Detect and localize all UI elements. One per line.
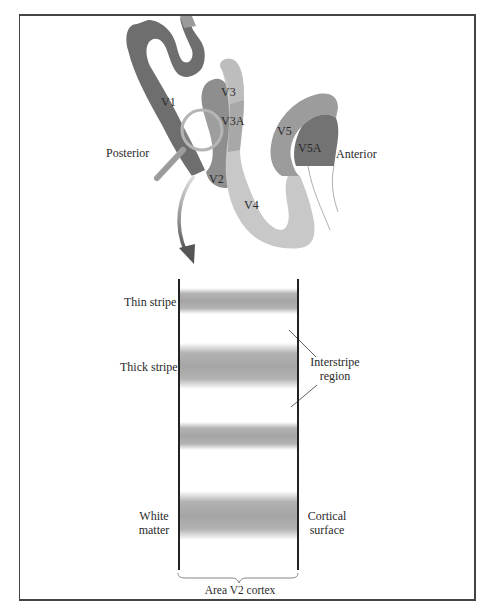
label-v1: V1 [161, 95, 176, 109]
thick-stripe-1 [180, 343, 297, 389]
cortical-surface-boundary-line [297, 279, 299, 570]
label-v5: V5 [277, 124, 292, 138]
label-cortical-surface: Cortical surface [302, 509, 352, 537]
label-v2: V2 [209, 172, 224, 186]
label-v3a: V3A [221, 114, 244, 128]
label-anterior: Anterior [336, 147, 377, 161]
label-interstripe-region: Interstripe region [303, 355, 367, 383]
label-v4: V4 [244, 198, 259, 212]
label-posterior: Posterior [106, 146, 149, 160]
label-white-matter: White matter [132, 509, 176, 537]
zoom-arrow-icon [179, 176, 195, 264]
label-thin-stripe: Thin stripe [124, 295, 176, 309]
thick-stripe-2 [180, 491, 297, 540]
label-v3: V3 [221, 85, 236, 99]
thin-stripe-2 [180, 422, 297, 450]
area-v2-brace [178, 573, 298, 583]
thin-stripe-1 [180, 288, 297, 314]
label-thick-stripe: Thick stripe [120, 360, 178, 374]
label-v5a: V5A [298, 141, 321, 155]
caption-area-v2-cortex: Area V2 cortex [195, 583, 285, 597]
